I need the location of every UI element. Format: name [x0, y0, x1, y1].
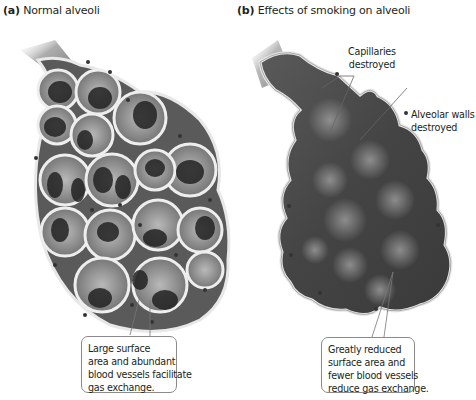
callout-line: fewer blood vessels: [328, 369, 408, 382]
normal-alveoli-cluster: [20, 40, 229, 337]
damaged-alveoli-sac: [252, 40, 451, 337]
label-line: destroyed: [348, 58, 396, 71]
callout-line: Greatly reduced: [328, 343, 408, 356]
callout-line: area and abundant: [88, 355, 170, 368]
callout-box-smoking: Greatly reduced surface area and fewer b…: [321, 337, 415, 393]
label-line: Capillaries: [348, 45, 396, 58]
label-line: destroyed: [411, 121, 474, 134]
callout-line: Large surface: [88, 342, 170, 355]
callout-line: reduce gas exchange.: [328, 382, 408, 395]
callout-box-normal: Large surface area and abundant blood ve…: [81, 336, 177, 393]
callout-line: blood vessels facilitate: [88, 368, 170, 381]
label-alveolar-walls-destroyed: Alveolar walls destroyed: [411, 108, 474, 134]
label-line: Alveolar walls: [411, 108, 474, 121]
callout-line: surface area and: [328, 356, 408, 369]
callout-line: gas exchange.: [88, 381, 170, 394]
label-capillaries-destroyed: Capillaries destroyed: [348, 45, 396, 71]
